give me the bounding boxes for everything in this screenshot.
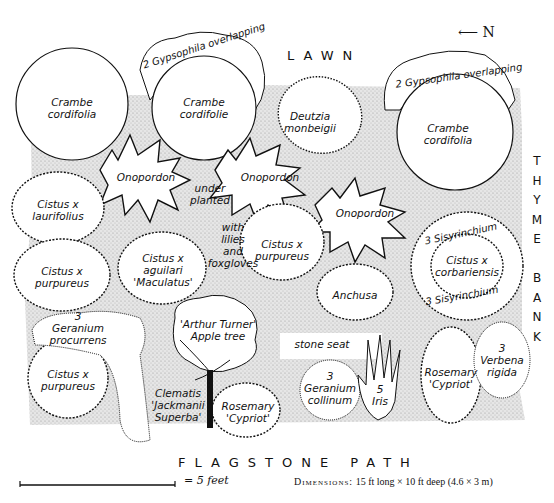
label-clematis: Clematis'JackmaniiSuperba' xyxy=(151,387,204,423)
label-verbena: 3Verbenarigida xyxy=(480,342,524,378)
north-arrow: ⟵ N xyxy=(458,24,495,40)
label-lilies-foxgloves: withliliesandfoxgloves xyxy=(208,221,259,269)
label-apple-tree: 'Arthur Turner'Apple tree xyxy=(180,318,256,342)
label-cistus-purpureus-3: Cistus xpurpureus xyxy=(41,368,95,392)
flagstone-path-label: FLAGSTONE PATH xyxy=(178,455,419,470)
label-crambe-3: Crambecordifolia xyxy=(424,122,473,146)
thyme-bank-label: THY ME BAN K xyxy=(530,152,544,347)
label-cistus-purpureus-2: Cistus xpurpureus xyxy=(255,238,309,262)
label-geranium-collinum: 3Geraniumcollinum xyxy=(304,370,356,406)
label-iris: 5Iris xyxy=(372,383,388,407)
label-anchusa: Anchusa xyxy=(333,289,378,301)
label-onopordon-2: Onopordon xyxy=(241,171,300,183)
label-cistus-aguilari: Cistus xaguilari'Maculatus' xyxy=(133,252,192,288)
label-stone-seat: stone seat xyxy=(295,338,350,350)
label-cistus-laurifolius: Cistus xlaurifolius xyxy=(32,198,83,222)
lawn-label: LAWN xyxy=(287,48,361,63)
arrow-left-icon: ⟵ xyxy=(458,24,478,40)
label-underplanted: underplanted xyxy=(190,182,230,206)
label-onopordon-1: Onopordon xyxy=(117,171,176,183)
label-rosemary-1: Rosemary'Cypriot' xyxy=(222,400,275,424)
label-crambe-2: Crambecordifolie xyxy=(180,96,229,120)
label-cistus-corbariensis: Cistus xcorbariensis xyxy=(435,254,499,278)
label-onopordon-3: Onopordon xyxy=(336,207,395,219)
dimensions-value: 15 ft long × 10 ft deep (4.6 × 3 m) xyxy=(356,476,493,487)
label-cistus-purpureus-1: Cistus xpurpureus xyxy=(35,265,89,289)
dimensions-note: Dimensions: 15 ft long × 10 ft deep (4.6… xyxy=(294,476,493,487)
label-geranium-procurrens: 3Geraniumprocurrens xyxy=(49,310,106,346)
label-rosemary-2: Rosemary'Cypriot' xyxy=(425,366,478,390)
north-label: N xyxy=(483,24,495,40)
label-deutzia: Deutziamonbeigii xyxy=(284,110,336,134)
dimensions-key: Dimensions: xyxy=(294,476,353,487)
scale-label: = 5 feet xyxy=(184,474,229,487)
label-crambe-1: Crambecordifolia xyxy=(48,96,97,120)
